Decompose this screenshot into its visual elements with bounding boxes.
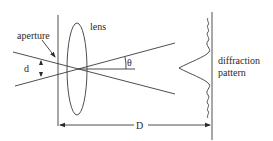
lens-label: lens [90, 21, 106, 32]
aperture-label: aperture [17, 30, 50, 41]
ray-lower-to-upper [15, 43, 175, 86]
pattern-label-line1: diffraction [218, 55, 260, 66]
D-label: D [136, 120, 143, 131]
d-label: d [24, 63, 29, 74]
theta-label: θ [127, 57, 132, 68]
aperture-pointer-arrow [42, 40, 55, 57]
diffraction-diagram: aperture lens d θ D diffraction pattern [0, 0, 273, 141]
pattern-label-line2: pattern [218, 67, 246, 78]
diffraction-pattern-curve [179, 18, 210, 118]
ray-upper-to-lower [13, 52, 175, 94]
theta-arc [125, 57, 126, 69]
